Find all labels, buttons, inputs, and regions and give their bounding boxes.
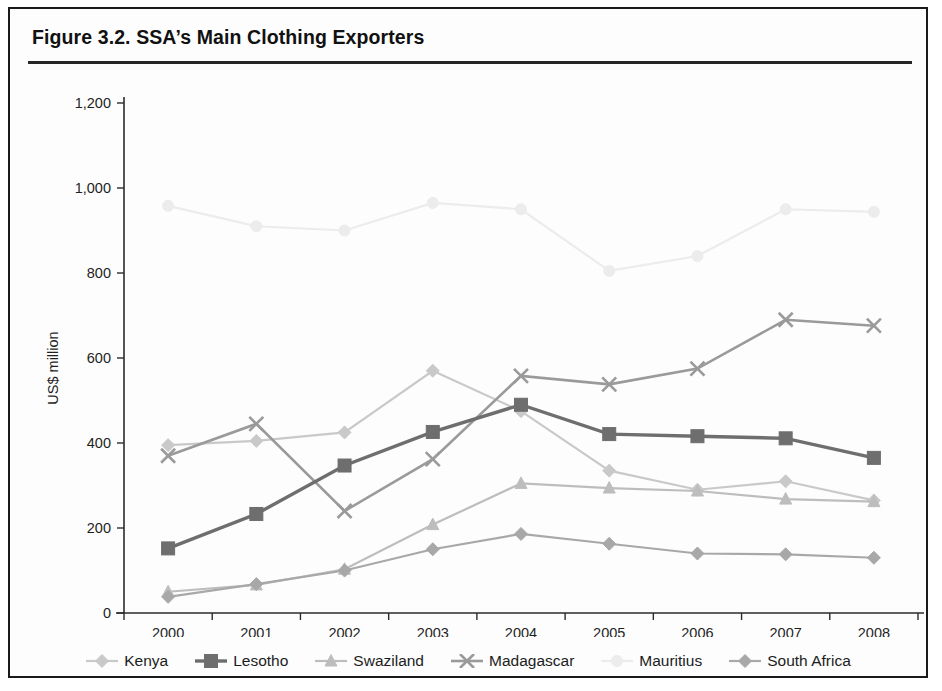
x-axis-tick-label: 2003 bbox=[417, 625, 449, 637]
data-point-marker bbox=[205, 655, 218, 668]
legend-marker-diamond-icon bbox=[85, 654, 119, 668]
data-point-marker bbox=[162, 542, 175, 555]
y-axis-tick-label: 1,200 bbox=[75, 95, 111, 111]
data-point-marker bbox=[739, 655, 752, 668]
series-line bbox=[168, 534, 874, 597]
data-point-marker bbox=[780, 204, 791, 215]
title-divider bbox=[28, 61, 912, 64]
data-point-marker bbox=[692, 251, 703, 262]
y-axis-tick-label: 400 bbox=[87, 435, 111, 451]
legend-item-south-africa[interactable]: South Africa bbox=[728, 652, 851, 670]
legend-marker-triangle-icon bbox=[314, 654, 348, 668]
chart-plot-area: 02004006008001,0001,200US$ million200020… bbox=[10, 67, 926, 637]
figure-title: Figure 3.2. SSA’s Main Clothing Exporter… bbox=[32, 26, 424, 49]
legend-label: South Africa bbox=[767, 652, 851, 670]
y-axis-title: US$ million bbox=[45, 331, 61, 404]
legend-marker-square-icon bbox=[194, 654, 228, 668]
data-point-marker bbox=[427, 197, 438, 208]
data-point-marker bbox=[603, 537, 616, 550]
data-point-marker bbox=[603, 464, 616, 477]
data-point-marker bbox=[516, 204, 527, 215]
y-axis-tick-label: 0 bbox=[103, 605, 111, 621]
x-axis-tick-label: 2008 bbox=[858, 625, 890, 637]
data-point-marker bbox=[603, 428, 616, 441]
legend-label: Lesotho bbox=[233, 652, 288, 670]
legend-item-lesotho[interactable]: Lesotho bbox=[194, 652, 288, 670]
y-axis-tick-label: 600 bbox=[87, 350, 111, 366]
data-point-marker bbox=[338, 504, 352, 518]
y-axis-tick-label: 1,000 bbox=[75, 180, 111, 196]
data-point-marker bbox=[426, 425, 439, 438]
x-axis-tick-label: 2001 bbox=[240, 625, 272, 637]
data-point-marker bbox=[163, 200, 174, 211]
legend-marker-diamond-icon bbox=[728, 654, 762, 668]
data-point-marker bbox=[249, 417, 263, 431]
legend-label: Kenya bbox=[124, 652, 168, 670]
y-axis-tick-label: 800 bbox=[87, 265, 111, 281]
data-point-marker bbox=[250, 507, 263, 520]
data-point-marker bbox=[515, 527, 528, 540]
legend-item-kenya[interactable]: Kenya bbox=[85, 652, 168, 670]
legend-item-mauritius[interactable]: Mauritius bbox=[600, 652, 702, 670]
x-axis-tick-label: 2005 bbox=[593, 625, 625, 637]
data-point-marker bbox=[515, 398, 528, 411]
legend-label: Mauritius bbox=[639, 652, 702, 670]
x-axis-tick-label: 2007 bbox=[770, 625, 802, 637]
x-axis-tick-label: 2000 bbox=[152, 625, 184, 637]
data-point-marker bbox=[426, 543, 439, 556]
data-point-marker bbox=[251, 221, 262, 232]
legend-item-swaziland[interactable]: Swaziland bbox=[314, 652, 424, 670]
data-point-marker bbox=[867, 451, 880, 464]
data-point-marker bbox=[779, 432, 792, 445]
data-point-marker bbox=[779, 475, 792, 488]
data-point-marker bbox=[779, 548, 792, 561]
line-chart: 02004006008001,0001,200US$ million200020… bbox=[10, 67, 926, 637]
x-axis-tick-label: 2006 bbox=[681, 625, 713, 637]
data-point-marker bbox=[867, 551, 880, 564]
data-point-marker bbox=[426, 452, 440, 466]
series-mauritius bbox=[163, 197, 880, 276]
data-point-marker bbox=[338, 426, 351, 439]
data-point-marker bbox=[250, 434, 263, 447]
data-point-marker bbox=[691, 547, 704, 560]
data-point-marker bbox=[426, 364, 439, 377]
data-point-marker bbox=[338, 459, 351, 472]
data-point-marker bbox=[868, 206, 879, 217]
data-point-marker bbox=[604, 265, 615, 276]
legend-label: Swaziland bbox=[353, 652, 424, 670]
data-point-marker bbox=[691, 430, 704, 443]
x-axis-tick-label: 2004 bbox=[505, 625, 537, 637]
data-point-marker bbox=[339, 225, 350, 236]
figure-container: Figure 3.2. SSA’s Main Clothing Exporter… bbox=[8, 7, 928, 678]
series-south-africa bbox=[162, 527, 881, 603]
legend-item-madagascar[interactable]: Madagascar bbox=[450, 652, 574, 670]
legend-label: Madagascar bbox=[489, 652, 574, 670]
x-axis-tick-label: 2002 bbox=[328, 625, 360, 637]
legend-marker-x-icon bbox=[450, 654, 484, 668]
data-point-marker bbox=[612, 656, 623, 667]
chart-legend: KenyaLesothoSwazilandMadagascarMauritius… bbox=[10, 645, 926, 677]
y-axis-tick-label: 200 bbox=[87, 520, 111, 536]
legend-marker-circle-icon bbox=[600, 654, 634, 668]
data-point-marker bbox=[96, 655, 109, 668]
